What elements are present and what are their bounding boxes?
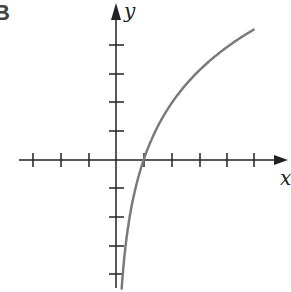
function-graph: x y xyxy=(0,0,291,292)
x-axis-label: x xyxy=(280,166,291,190)
x-axis: x xyxy=(19,153,291,190)
x-axis-arrow-icon xyxy=(274,155,288,165)
y-axis-arrow-icon xyxy=(111,3,121,20)
log-curve xyxy=(122,30,254,289)
y-axis-label: y xyxy=(123,0,136,23)
y-axis: y xyxy=(109,0,136,288)
